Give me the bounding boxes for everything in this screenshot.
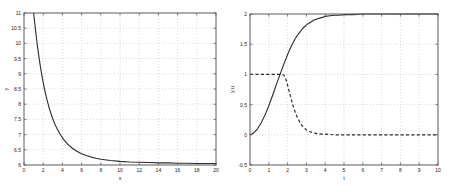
x-tick-label: 6 — [361, 167, 364, 173]
y-tick-label: 9 — [18, 71, 21, 77]
y-tick-label: 11 — [16, 10, 21, 16]
x-tick-label: 8 — [399, 167, 402, 173]
y-tick-label: -0.5 — [238, 162, 247, 168]
figure-canvas: 0246810121416182066.577.588.599.51010.51… — [0, 0, 451, 192]
y-tick-label: 1.5 — [240, 41, 247, 47]
x-tick-label: 20 — [213, 167, 219, 173]
chart-panel-right: 012345678910-0.500.511.52ty,u — [225, 0, 450, 192]
x-tick-label: 10 — [435, 167, 441, 173]
y-tick-label: 7 — [18, 132, 21, 138]
x-tick-label: 9 — [418, 167, 421, 173]
x-tick-label: 16 — [175, 167, 181, 173]
x-tick-label: 12 — [136, 167, 142, 173]
x-tick-label: 2 — [42, 167, 45, 173]
y-tick-label: 0 — [244, 132, 247, 138]
chart-panel-left: 0246810121416182066.577.588.599.51010.51… — [0, 0, 225, 192]
x-tick-label: 3 — [305, 167, 308, 173]
y-axis-title: y — [3, 87, 9, 90]
y-tick-label: 1 — [244, 71, 247, 77]
x-axis-title: t — [343, 175, 345, 181]
x-tick-label: 18 — [194, 167, 200, 173]
y-tick-label: 6.5 — [14, 147, 21, 153]
x-tick-label: 6 — [80, 167, 83, 173]
x-tick-label: 7 — [380, 167, 383, 173]
y-tick-label: 8 — [18, 101, 21, 107]
y-tick-label: 9.5 — [14, 56, 21, 62]
data-curve-y — [34, 13, 216, 163]
x-tick-label: 0 — [249, 167, 252, 173]
x-tick-label: 4 — [324, 167, 327, 173]
y-tick-label: 10.5 — [11, 25, 21, 31]
y-tick-label: 2 — [244, 11, 247, 17]
x-tick-label: 1 — [267, 167, 270, 173]
left-plot-svg: 0246810121416182066.577.588.599.51010.51… — [0, 0, 225, 192]
y-tick-label: 0.5 — [240, 102, 247, 108]
y-tick-label: 7.5 — [14, 116, 21, 122]
y-tick-label: 8.5 — [14, 86, 21, 92]
x-tick-label: 8 — [99, 167, 102, 173]
x-tick-label: 14 — [156, 167, 162, 173]
x-tick-label: 5 — [343, 167, 346, 173]
y-tick-label: 6 — [18, 162, 21, 168]
y-axis-title: y,u — [229, 86, 235, 93]
x-axis-title: x — [119, 175, 122, 181]
y-tick-label: 10 — [15, 40, 21, 46]
x-tick-label: 2 — [286, 167, 289, 173]
right-plot-svg: 012345678910-0.500.511.52ty,u — [225, 0, 450, 192]
x-tick-label: 0 — [23, 167, 26, 173]
x-tick-label: 10 — [117, 167, 123, 173]
x-tick-label: 4 — [61, 167, 64, 173]
